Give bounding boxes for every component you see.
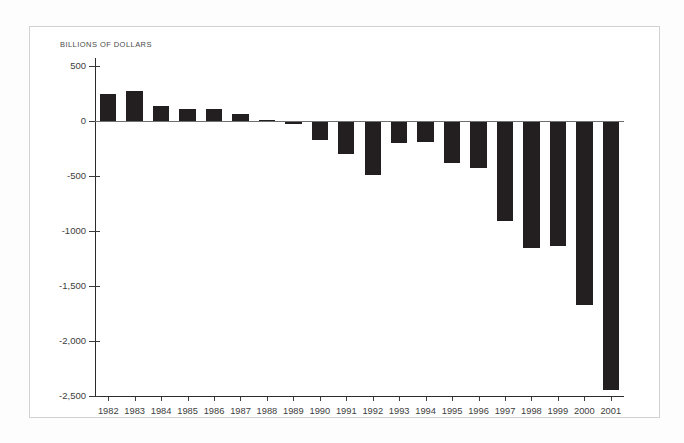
- bar: [497, 121, 513, 221]
- y-tick-label-wrap: 0: [24, 115, 86, 127]
- bar: [365, 121, 381, 175]
- x-tick-mark: [531, 397, 532, 401]
- y-axis-units-label: BILLIONS OF DOLLARS: [60, 40, 152, 49]
- y-tick-label-wrap: -2,500: [24, 390, 86, 402]
- y-axis-line: [95, 58, 96, 396]
- bar: [603, 121, 619, 390]
- x-tick-mark: [293, 397, 294, 401]
- x-tick-mark: [320, 397, 321, 401]
- x-tick-label: 1996: [465, 406, 491, 416]
- y-tick-mark: [89, 341, 100, 342]
- x-tick-mark: [346, 397, 347, 401]
- x-tick-label: 1999: [545, 406, 571, 416]
- bar: [550, 121, 566, 246]
- y-tick-label: 0: [30, 115, 86, 126]
- x-tick-mark: [267, 397, 268, 401]
- x-tick-label: 1995: [439, 406, 465, 416]
- y-tick-label-wrap: -1,500: [24, 280, 86, 292]
- x-tick-label: 1997: [492, 406, 518, 416]
- x-tick-mark: [426, 397, 427, 401]
- x-tick-mark: [240, 397, 241, 401]
- y-tick-label: -500: [30, 170, 86, 181]
- x-tick-label: 1985: [174, 406, 200, 416]
- x-tick-label: 1998: [518, 406, 544, 416]
- zero-baseline: [95, 121, 624, 122]
- bar: [206, 109, 222, 121]
- x-tick-label: 1989: [280, 406, 306, 416]
- x-tick-mark: [611, 397, 612, 401]
- y-tick-mark: [89, 66, 100, 67]
- x-tick-label: 2000: [571, 406, 597, 416]
- x-tick-mark: [452, 397, 453, 401]
- y-tick-mark: [89, 396, 100, 397]
- y-tick-label: -1,500: [30, 280, 86, 291]
- bar: [576, 121, 592, 305]
- bar-chart: BILLIONS OF DOLLARS 5000-500-1000-1,500-…: [0, 0, 684, 443]
- x-tick-mark: [479, 397, 480, 401]
- x-tick-mark: [505, 397, 506, 401]
- x-axis-line: [95, 396, 624, 397]
- x-tick-mark: [135, 397, 136, 401]
- x-tick-label: 1992: [360, 406, 386, 416]
- bar: [391, 121, 407, 143]
- bar: [232, 114, 248, 121]
- x-tick-label: 1988: [254, 406, 280, 416]
- y-tick-label-wrap: -2,000: [24, 335, 86, 347]
- x-tick-label: 1982: [95, 406, 121, 416]
- x-tick-label: 1990: [307, 406, 333, 416]
- y-tick-mark: [89, 286, 100, 287]
- x-tick-label: 2001: [598, 406, 624, 416]
- x-tick-mark: [108, 397, 109, 401]
- y-tick-label: 500: [30, 60, 86, 71]
- y-tick-label: -2,500: [30, 390, 86, 401]
- y-tick-label-wrap: -1000: [24, 225, 86, 237]
- y-tick-label: -1000: [30, 225, 86, 236]
- bar: [417, 121, 433, 142]
- x-tick-label: 1991: [333, 406, 359, 416]
- y-tick-label: -2,000: [30, 335, 86, 346]
- bar: [126, 91, 142, 121]
- bar: [470, 121, 486, 168]
- x-tick-mark: [584, 397, 585, 401]
- x-tick-label: 1987: [227, 406, 253, 416]
- y-tick-label-wrap: 500: [24, 60, 86, 72]
- x-tick-label: 1983: [121, 406, 147, 416]
- bar: [444, 121, 460, 163]
- y-tick-mark: [89, 176, 100, 177]
- x-tick-mark: [558, 397, 559, 401]
- x-tick-mark: [188, 397, 189, 401]
- bar: [100, 94, 116, 121]
- y-tick-mark: [89, 231, 100, 232]
- x-tick-mark: [214, 397, 215, 401]
- x-tick-label: 1984: [148, 406, 174, 416]
- screenshot-page: BILLIONS OF DOLLARS 5000-500-1000-1,500-…: [0, 0, 684, 443]
- bar: [179, 109, 195, 121]
- x-tick-mark: [399, 397, 400, 401]
- x-tick-mark: [373, 397, 374, 401]
- bar: [153, 106, 169, 121]
- bar: [312, 121, 328, 140]
- x-tick-mark: [161, 397, 162, 401]
- bar: [523, 121, 539, 248]
- y-tick-label-wrap: -500: [24, 170, 86, 182]
- x-tick-label: 1993: [386, 406, 412, 416]
- bar: [338, 121, 354, 154]
- x-tick-label: 1994: [412, 406, 438, 416]
- x-tick-label: 1986: [201, 406, 227, 416]
